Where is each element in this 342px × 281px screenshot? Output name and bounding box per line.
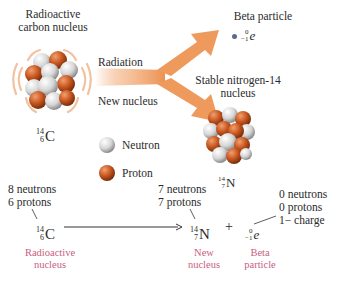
caption-line: New (180, 247, 228, 259)
reactant-annotation: 8 neutrons 6 protons (8, 183, 56, 209)
atomic-number: 6 (40, 136, 44, 144)
beta-particle-title: Beta particle (218, 10, 308, 23)
legend: Neutron Proton (98, 136, 160, 182)
annotation-line: 7 neutrons (158, 183, 206, 196)
radiation-label: Radiation (98, 56, 143, 69)
product2-symbol: 0 −1 e (245, 219, 259, 243)
caption-line: Beta (236, 247, 284, 259)
annotation-line: 1− charge (279, 214, 327, 227)
annotation-line: 0 protons (279, 201, 327, 214)
element-symbol: C (45, 128, 55, 145)
label-line: nucleus (178, 87, 298, 100)
atomic-number: 6 (40, 234, 44, 242)
element-symbol: e (253, 227, 259, 243)
legend-label: Proton (122, 167, 153, 180)
proton-sphere-icon (98, 164, 116, 182)
carbon-nucleus-icon (12, 46, 92, 118)
new-nucleus-label: New nucleus (98, 95, 158, 108)
reaction-arrow-icon (64, 222, 184, 232)
beta-particle-symbol-top: 0 −1 e (232, 28, 255, 44)
nitrogen-symbol-top: 14 7 N (218, 167, 235, 191)
nitrogen-nucleus-graphic (200, 106, 258, 166)
electron-dot-icon (232, 34, 237, 39)
charge-number: −1 (241, 36, 248, 43)
atomic-number: 7 (194, 234, 198, 242)
element-symbol: N (199, 226, 210, 243)
caption-line: nucleus (10, 259, 90, 271)
reactant-symbol: 14 6 C (36, 218, 55, 243)
label-line: Stable nitrogen-14 (178, 74, 298, 87)
carbon-symbol-top: 14 6 C (36, 120, 55, 145)
element-symbol: N (226, 175, 235, 191)
caption-line: nucleus (180, 259, 228, 271)
legend-item-neutron: Neutron (98, 136, 160, 154)
carbon-nucleus-graphic (12, 46, 92, 118)
legend-item-proton: Proton (98, 164, 160, 182)
product1-annotation: 7 neutrons 7 protons (158, 183, 206, 209)
product1-caption: New nucleus (180, 247, 228, 271)
atomic-number: 7 (222, 183, 226, 190)
plus-sign: + (225, 219, 233, 235)
charge-number: −1 (245, 235, 252, 242)
nitrogen-nucleus-icon (200, 106, 258, 166)
annotation-line: 8 neutrons (8, 183, 56, 196)
product2-caption: Beta particle (236, 247, 284, 271)
annotation-line: 6 protons (8, 196, 56, 209)
caption-line: particle (236, 259, 284, 271)
product1-symbol: 14 7 N (190, 218, 210, 243)
annotation-line: 7 protons (158, 196, 206, 209)
caption-line: Radioactive (10, 247, 90, 259)
legend-label: Neutron (122, 139, 160, 152)
stable-nitrogen-label: Stable nitrogen-14 nucleus (178, 74, 298, 100)
reactant-caption: Radioactive nucleus (10, 247, 90, 271)
product2-annotation: 0 neutrons 0 protons 1− charge (279, 188, 327, 227)
neutron-sphere-icon (98, 136, 116, 154)
element-symbol: C (45, 226, 55, 243)
element-symbol: e (249, 28, 255, 44)
annotation-line: 0 neutrons (279, 188, 327, 201)
